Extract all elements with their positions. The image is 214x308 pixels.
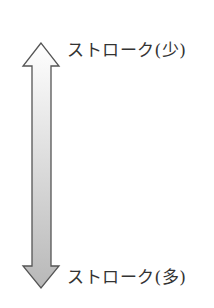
stroke-high-label: ストローク(多) xyxy=(67,267,186,287)
stroke-low-label: ストローク(少) xyxy=(67,40,186,60)
arrow-shape xyxy=(23,43,59,288)
